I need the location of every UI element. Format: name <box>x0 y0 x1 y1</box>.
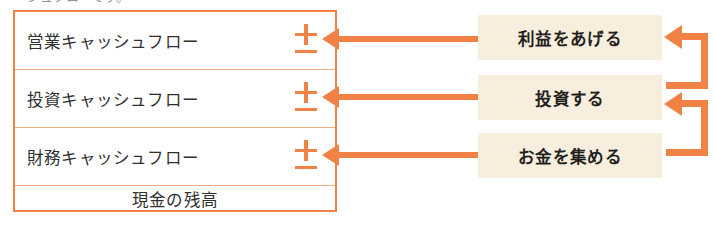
cashflow-statement-table: 営業キャッシュフロー 投資キャッシュフロー 財務キャッシュフロー 現金の残高 <box>13 10 337 212</box>
row-label-cash-balance: 現金の残高 <box>15 187 335 211</box>
table-row-cash-balance[interactable]: 現金の残高 <box>15 186 335 211</box>
action-label-invest[interactable]: 投資する <box>478 75 662 120</box>
plus-minus-icon <box>295 140 317 174</box>
action-label-text: 投資する <box>535 86 605 110</box>
plus-minus-icon <box>295 24 317 58</box>
cropped-caption-text: シュフローです。 <box>27 0 237 3</box>
action-label-text: お金を集める <box>518 144 622 168</box>
loop-arrow-icon-invest-to-profit <box>660 22 714 94</box>
table-row-financing[interactable]: 財務キャッシュフロー <box>15 128 335 186</box>
diagram-canvas: シュフローです。 営業キャッシュフロー 投資キャッシュフロー 財務キャッシュフロ… <box>0 0 714 236</box>
plus-minus-icon <box>295 82 317 116</box>
action-label-raise-profit[interactable]: 利益をあげる <box>478 15 662 60</box>
row-label-operating: 営業キャッシュフロー <box>15 29 199 53</box>
action-label-raise-money[interactable]: お金を集める <box>478 133 662 178</box>
row-label-investing: 投資キャッシュフロー <box>15 87 199 111</box>
loop-arrow-icon-money-to-invest <box>660 89 714 161</box>
table-row-operating[interactable]: 営業キャッシュフロー <box>15 12 335 70</box>
action-label-text: 利益をあげる <box>518 26 622 50</box>
table-row-investing[interactable]: 投資キャッシュフロー <box>15 70 335 128</box>
row-label-financing: 財務キャッシュフロー <box>15 145 199 169</box>
